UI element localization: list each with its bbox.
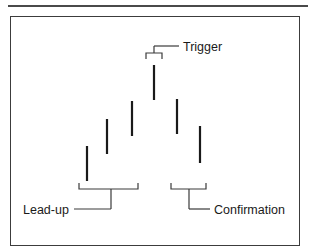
top-horizontal-rule — [8, 5, 308, 7]
chart-frame-border: Trigger Lead-up Confirmation — [10, 16, 300, 246]
confirmation-annotation-bracket — [171, 183, 210, 209]
trigger-annotation-leader — [146, 46, 179, 59]
lead-up-label: Lead-up — [23, 203, 69, 217]
pattern-diagram-svg: Trigger Lead-up Confirmation — [11, 17, 301, 247]
lead-up-annotation-bracket — [74, 183, 138, 209]
confirmation-label: Confirmation — [214, 203, 285, 217]
clipped-caption-text — [110, 0, 220, 1]
figure-root: Trigger Lead-up Confirmation — [0, 0, 316, 252]
trigger-label: Trigger — [183, 40, 222, 54]
bar-group-confirmation — [177, 99, 200, 163]
bar-group-lead-up — [87, 101, 132, 181]
